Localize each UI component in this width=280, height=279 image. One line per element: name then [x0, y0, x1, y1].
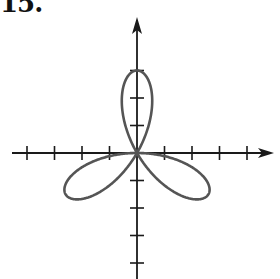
- polar-plot: [0, 0, 280, 279]
- axes: [12, 17, 274, 279]
